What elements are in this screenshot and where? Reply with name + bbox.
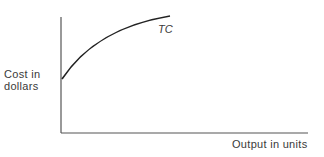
tc-curve bbox=[62, 16, 170, 79]
tc-curve-label: TC bbox=[158, 23, 173, 35]
y-axis-label-line2: dollars bbox=[4, 80, 60, 92]
y-axis-label-line1: Cost in bbox=[4, 68, 60, 80]
x-axis-label: Output in units bbox=[232, 138, 307, 150]
y-axis-label: Cost in dollars bbox=[4, 68, 60, 92]
